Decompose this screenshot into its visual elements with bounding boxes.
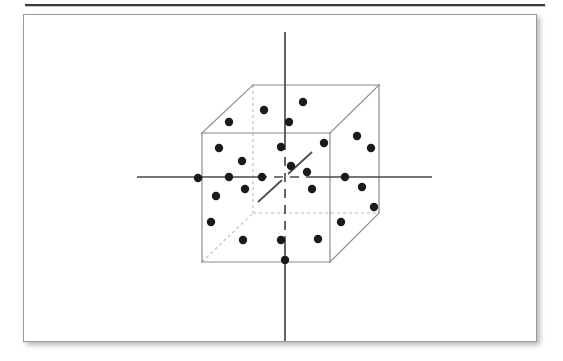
particle-dot [314,235,322,243]
particle-dot [238,157,246,165]
particle-dot [287,162,295,170]
particle-dot [277,143,285,151]
particle-dot [337,218,345,226]
particle-dot [215,144,223,152]
particle-dot [225,118,233,126]
depth-axis-stub-lower [258,180,282,202]
particle-dot [212,192,220,200]
particle-dot [207,218,215,226]
particle-dot [367,144,375,152]
particle-dot [194,174,202,182]
particle-dot [239,236,247,244]
particle-dot [299,98,307,106]
particle-dot [258,173,266,181]
particle-dot [370,203,378,211]
figure-canvas [24,15,536,341]
top-divider-rule-shadow [26,6,546,7]
cube-edge-oblique-top-right [330,85,379,133]
particle-dot [303,168,311,176]
particle-dot [260,106,268,114]
particle-dot [358,183,366,191]
particle-dot [277,236,285,244]
figure-panel [23,14,537,342]
cube-diagram-svg [24,15,536,341]
particle-dot [241,185,249,193]
particle-dot [320,139,328,147]
particle-dot-layer [194,98,378,264]
particle-dot [225,173,233,181]
particle-dot [308,185,316,193]
particle-dot [353,132,361,140]
page-root [0,0,563,361]
particle-dot [341,173,349,181]
particle-dot [281,256,289,264]
particle-dot [285,118,293,126]
